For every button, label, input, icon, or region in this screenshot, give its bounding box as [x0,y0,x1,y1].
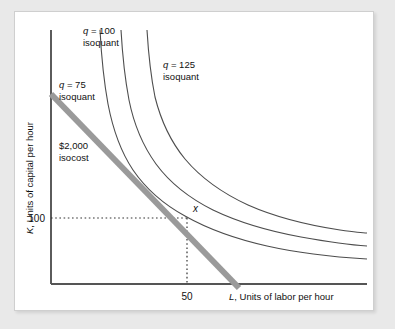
y-axis-title-rest: , Units of capital per hour [24,122,35,228]
figure-root: x 100 50 L, Units of labor per hour K, U… [0,0,395,329]
annotation-q75: q = 75 isoquant [59,79,95,102]
q125-label-line1: q = 125 [163,59,195,70]
tangency-guides [51,218,187,284]
q100-label-eq: = 100 [88,25,115,36]
x-tick-label-50: 50 [181,291,193,302]
q125-label-eq: = 125 [168,59,195,70]
chart-panel: x 100 50 L, Units of labor per hour K, U… [14,11,374,311]
annotation-q125: q = 125 isoquant [163,59,199,82]
q75-label-line2: isoquant [59,91,95,102]
isocost-label-line2: isocost [59,152,89,163]
q100-label-line2: isoquant [83,37,119,48]
q125-label-line2: isoquant [163,71,199,82]
x-axis-title-rest: , Units of labor per hour [234,291,333,302]
isoquant-curves [100,30,367,259]
isoquant-curve-q100 [121,30,367,246]
x-axis-title: L, Units of labor per hour [229,291,334,302]
isocost-label-line1: $2,000 [59,140,88,151]
q75-label-line1: q = 75 [59,79,86,90]
tangency-point-label: x [192,203,199,214]
q100-label-line1: q = 100 [83,25,115,36]
isoquant-isocost-chart: x 100 50 L, Units of labor per hour K, U… [15,12,373,310]
isocost-line [51,94,239,288]
axes [51,30,367,284]
isocost-line-group [51,94,239,288]
q75-label-eq: = 75 [64,79,85,90]
y-axis-title: K, Units of capital per hour [24,122,35,234]
isoquant-curve-q75 [100,30,367,259]
annotation-q100: q = 100 isoquant [83,25,119,48]
annotation-isocost: $2,000 isocost [59,140,89,163]
